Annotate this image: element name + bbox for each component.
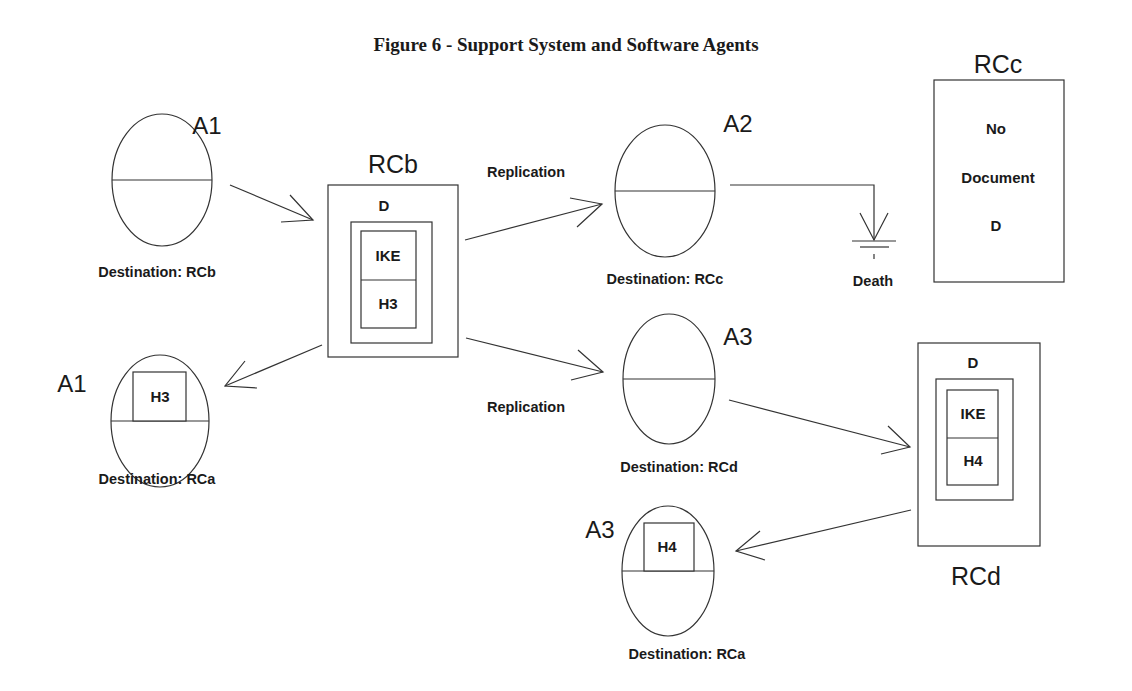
- rcc-line-3: D: [991, 217, 1002, 234]
- document-label: D: [968, 354, 979, 371]
- rcc-line-1: No: [986, 120, 1006, 137]
- agent-destination: Destination: RCb: [98, 264, 216, 280]
- agent-destination: Destination: RCa: [99, 471, 217, 487]
- resource-center-rcd: D IKE H4 RCd: [918, 343, 1040, 590]
- arrow-rcd-to-a3-bottom: [736, 510, 911, 560]
- rc-label: RCc: [974, 50, 1023, 78]
- rcc-line-2: Document: [961, 169, 1034, 186]
- death-path: Death: [730, 185, 896, 289]
- carried-handler-label: H4: [657, 538, 677, 555]
- agent-a3-top: A3 Destination: RCd: [620, 314, 752, 475]
- agent-destination: Destination: RCc: [607, 271, 724, 287]
- agent-label: A3: [585, 516, 614, 543]
- agent-label: A2: [723, 110, 752, 137]
- agent-a3-bottom: H4 A3 Destination: RCa: [585, 506, 746, 662]
- arrow-a3-to-rcd: [729, 400, 910, 454]
- replication-label-lower: Replication: [487, 399, 565, 415]
- figure-title: Figure 6 - Support System and Software A…: [373, 34, 758, 55]
- resource-center-rcb: RCb D IKE H3: [328, 150, 458, 357]
- ike-label: IKE: [960, 405, 985, 422]
- agent-a2: A2 Destination: RCc: [607, 110, 753, 287]
- agent-a1-bottom: H3 A1 Destination: RCa: [57, 355, 216, 487]
- arrow-rcb-to-a1-bottom: [225, 345, 322, 388]
- agent-label: A3: [723, 323, 752, 350]
- arrow-rcb-to-a3: Replication: [466, 338, 603, 415]
- rc-label: RCd: [951, 562, 1001, 590]
- replication-label-upper: Replication: [487, 164, 565, 180]
- handler-label: H3: [378, 295, 397, 312]
- document-label: D: [379, 197, 390, 214]
- agent-label: A1: [57, 370, 86, 397]
- arrow-rcb-to-a2: Replication: [465, 164, 602, 240]
- agent-label: A1: [192, 112, 221, 139]
- carried-handler-label: H3: [150, 388, 169, 405]
- death-label: Death: [853, 273, 893, 289]
- agent-destination: Destination: RCa: [629, 646, 747, 662]
- ike-label: IKE: [375, 247, 400, 264]
- arrow-a1-to-rcb: [230, 185, 313, 222]
- diagram-canvas: Figure 6 - Support System and Software A…: [0, 0, 1132, 691]
- agent-a1-top: A1 Destination: RCb: [98, 112, 221, 280]
- handler-label: H4: [963, 452, 983, 469]
- agent-destination: Destination: RCd: [620, 459, 738, 475]
- rc-label: RCb: [368, 150, 418, 178]
- resource-center-rcc: RCc No Document D: [934, 50, 1064, 282]
